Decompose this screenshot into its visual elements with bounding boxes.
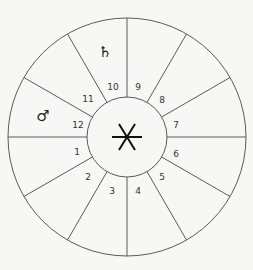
house-divider-line	[147, 172, 187, 240]
house-number-3: 3	[109, 186, 115, 196]
house-divider-line	[162, 78, 230, 118]
mars-icon: ♂	[36, 107, 49, 125]
house-number-4: 4	[135, 186, 141, 196]
house-divider-line	[24, 157, 92, 197]
house-divider-line	[162, 157, 230, 197]
house-number-8: 8	[159, 95, 165, 105]
house-number-1: 1	[74, 147, 80, 157]
house-number-7: 7	[173, 120, 179, 130]
house-number-6: 6	[173, 149, 179, 159]
house-number-9: 9	[135, 82, 141, 92]
house-number-11: 11	[82, 94, 93, 104]
house-wheel-diagram: 123456789101112 ♄♂	[0, 0, 253, 270]
house-number-2: 2	[85, 172, 91, 182]
house-number-12: 12	[72, 120, 83, 130]
house-divider-line	[147, 34, 187, 102]
house-number-5: 5	[159, 172, 165, 182]
house-number-10: 10	[107, 82, 119, 92]
saturn-icon: ♄	[98, 43, 111, 61]
